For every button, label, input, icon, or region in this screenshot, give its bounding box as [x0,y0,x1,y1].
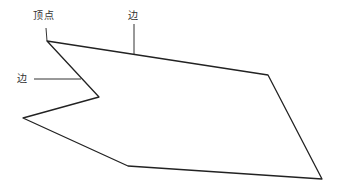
concave-hexagon [23,41,322,179]
vertex-label: 顶点 [33,11,55,21]
top-edge-label: 边 [128,11,139,21]
vertex-leader-line [46,28,47,41]
polygon-diagram [0,0,341,189]
left-edge-label: 边 [17,74,28,84]
